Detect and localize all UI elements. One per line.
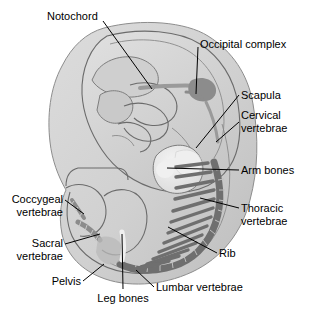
eye-vesicle	[97, 91, 133, 124]
label-cervical-vertebrae-line2: vertebrae	[241, 122, 287, 134]
label-lumbar-vertebrae: Lumbar vertebrae	[156, 281, 243, 293]
label-notochord: Notochord	[47, 10, 98, 22]
label-sacral-vertebrae-line2: vertebrae	[17, 250, 63, 262]
label-occipital-complex: Occipital complex	[200, 38, 287, 50]
label-coccygeal-vertebrae-line1: Coccygeal	[12, 193, 63, 205]
label-thoracic-vertebrae-line2: vertebrae	[241, 215, 287, 227]
label-cervical-vertebrae-line1: Cervical	[241, 109, 281, 121]
arm-bone-head	[156, 162, 174, 178]
label-thoracic-vertebrae-line1: Thoracic	[241, 202, 284, 214]
embryo-body	[49, 22, 257, 284]
embryo-skeleton-diagram: Notochord Occipital complex Scapula Cerv…	[0, 0, 313, 316]
label-scapula: Scapula	[241, 89, 282, 101]
diagram-canvas: Notochord Occipital complex Scapula Cerv…	[0, 0, 313, 316]
label-arm-bones: Arm bones	[241, 164, 295, 176]
label-rib: Rib	[219, 247, 236, 259]
label-sacral-vertebrae-line1: Sacral	[32, 237, 63, 249]
label-pelvis: Pelvis	[52, 275, 82, 287]
label-leg-bones: Leg bones	[97, 292, 149, 304]
label-coccygeal-vertebrae-line2: vertebrae	[17, 206, 63, 218]
